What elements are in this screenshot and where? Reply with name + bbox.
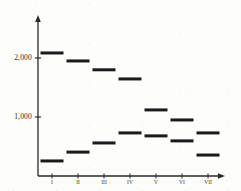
level-bar — [41, 159, 64, 162]
level-bar — [93, 141, 116, 144]
x-axis-tick-label: VI — [172, 179, 192, 185]
level-bar — [119, 131, 142, 134]
x-axis-tick-label: I — [42, 179, 62, 185]
x-axis-tick-label: II — [68, 179, 88, 185]
y-axis-tick-label: 2,000 — [2, 53, 32, 62]
level-bar — [197, 154, 220, 157]
level-bar — [119, 77, 142, 80]
level-bar — [145, 134, 168, 137]
x-axis-tick-label: IV — [120, 179, 140, 185]
chart-plot-area — [0, 0, 241, 191]
x-axis-tick-label: VII — [198, 179, 218, 185]
level-bar — [145, 108, 168, 111]
level-bar — [171, 118, 194, 121]
level-bar — [67, 59, 90, 62]
level-bar — [93, 68, 116, 71]
series-upper-bars — [41, 51, 220, 134]
chart-figure: 1,0002,000 IIIIIIIVVVIVII — [0, 0, 241, 191]
level-bar — [41, 51, 64, 54]
x-axis-tick-label: V — [146, 179, 166, 185]
y-axis-tick-label: 1,000 — [2, 112, 32, 121]
level-bar — [197, 131, 220, 134]
level-bar — [67, 151, 90, 154]
level-bar — [171, 139, 194, 142]
series-lower-bars — [41, 131, 220, 162]
x-axis-tick-label: III — [94, 179, 114, 185]
